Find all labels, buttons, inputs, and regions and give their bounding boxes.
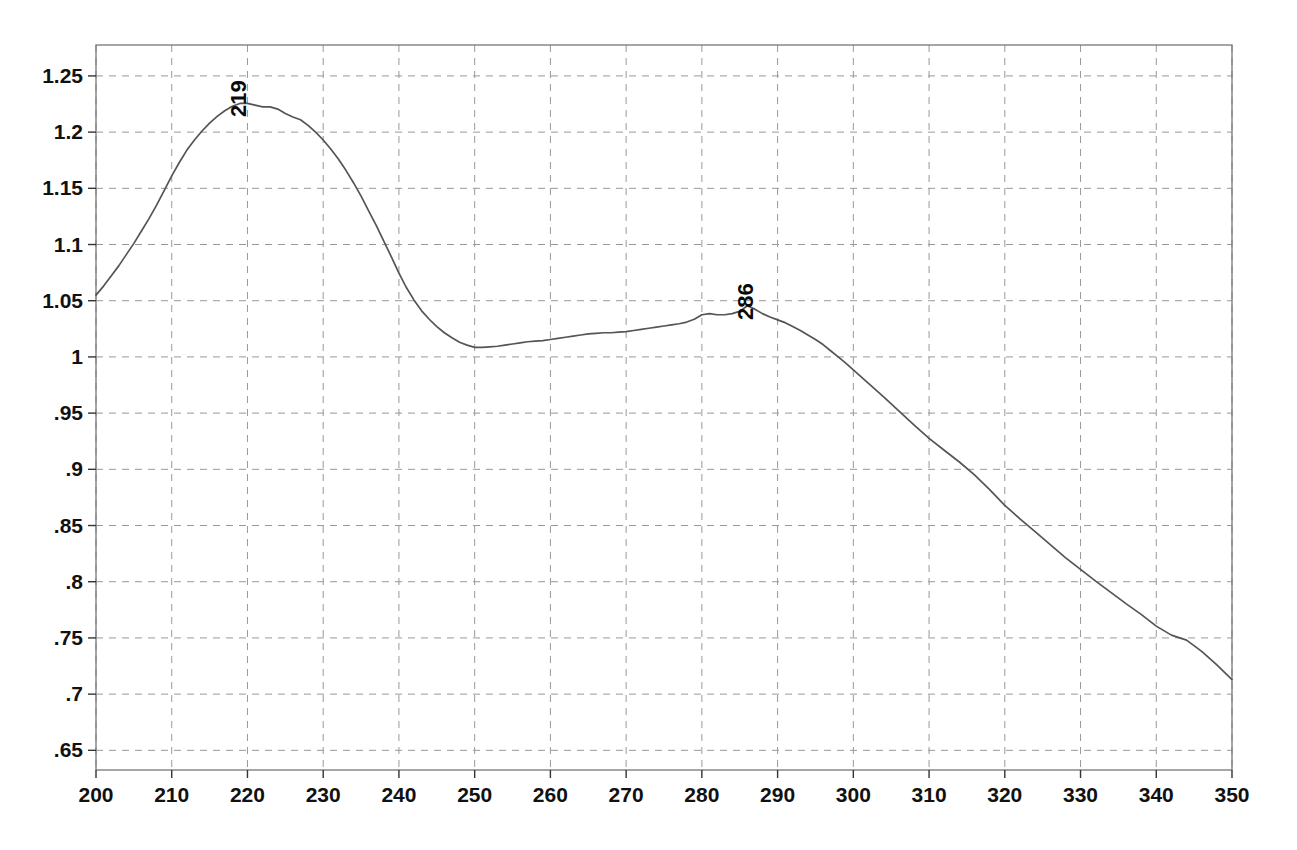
series-line <box>96 103 1232 679</box>
grid-layer <box>96 45 1232 770</box>
x-axis-tick-label: 290 <box>738 784 818 805</box>
spectrum-plot <box>0 0 1297 850</box>
x-axis-tick-label: 270 <box>586 784 666 805</box>
x-axis-tick-label: 220 <box>207 784 287 805</box>
x-axis-tick-label: 320 <box>965 784 1045 805</box>
y-axis-tick-label: 1.25 <box>42 65 83 86</box>
y-axis-tick-label: .9 <box>65 458 83 479</box>
x-axis-tick-label: 280 <box>662 784 742 805</box>
x-axis-tick-label: 240 <box>359 784 439 805</box>
peak-label: 286 <box>735 283 757 320</box>
peak-label: 219 <box>228 81 250 118</box>
y-axis-tick-label: .65 <box>54 739 83 760</box>
x-axis-tick-label: 350 <box>1192 784 1272 805</box>
tick-marks <box>88 76 1232 778</box>
y-axis-tick-label: 1 <box>71 346 83 367</box>
x-axis-tick-label: 230 <box>283 784 363 805</box>
x-axis-tick-label: 250 <box>435 784 515 805</box>
x-axis-tick-label: 260 <box>510 784 590 805</box>
y-axis-tick-label: .7 <box>65 683 83 704</box>
plot-frame <box>96 45 1232 770</box>
y-axis-tick-label: 1.05 <box>42 290 83 311</box>
y-axis-tick-label: 1.1 <box>54 234 83 255</box>
y-axis-tick-label: .75 <box>54 627 83 648</box>
axis-frame <box>96 45 1232 770</box>
x-axis-tick-label: 200 <box>56 784 136 805</box>
y-axis-tick-label: .95 <box>54 402 83 423</box>
x-axis-tick-label: 340 <box>1116 784 1196 805</box>
chart-container: 1.251.21.151.11.051.95.9.85.8.75.7.65 20… <box>0 0 1297 850</box>
x-axis-tick-label: 310 <box>889 784 969 805</box>
y-axis-tick-label: .85 <box>54 515 83 536</box>
x-axis-tick-label: 330 <box>1041 784 1121 805</box>
x-axis-tick-label: 300 <box>813 784 893 805</box>
y-axis-tick-label: .8 <box>65 571 83 592</box>
data-series-layer <box>96 103 1232 679</box>
y-axis-tick-label: 1.15 <box>42 177 83 198</box>
x-axis-tick-label: 210 <box>132 784 212 805</box>
y-axis-tick-label: 1.2 <box>54 121 83 142</box>
